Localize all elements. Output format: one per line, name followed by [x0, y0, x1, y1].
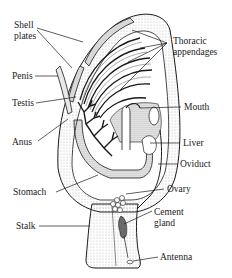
label-cement-line1: Cement — [154, 207, 184, 218]
label-testis: Testis — [12, 98, 34, 109]
label-penis: Penis — [12, 71, 33, 82]
label-stomach: Stomach — [13, 187, 46, 198]
label-anus: Anus — [12, 137, 32, 148]
label-shell-plates-line2: plates — [14, 31, 36, 42]
label-antenna: Antenna — [160, 252, 192, 263]
liver — [142, 136, 156, 155]
label-mouth: Mouth — [184, 102, 209, 113]
label-thoracic-line1: Thoracic — [173, 36, 207, 47]
label-liver: Liver — [183, 138, 204, 149]
stalk — [86, 204, 140, 268]
antenna — [127, 260, 133, 264]
label-ovary: Ovary — [167, 184, 191, 195]
label-stalk: Stalk — [16, 221, 36, 232]
label-oviduct: Oviduct — [180, 159, 211, 170]
label-cement-line2: gland — [154, 218, 175, 229]
label-shell-plates-line1: Shell — [14, 20, 34, 31]
label-thoracic-line2: appendages — [173, 47, 217, 58]
